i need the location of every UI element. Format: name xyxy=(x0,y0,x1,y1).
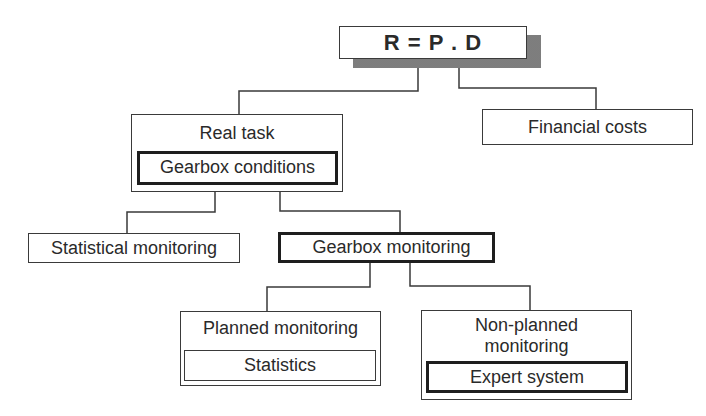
connector-gearbox-to-planned xyxy=(267,263,370,311)
statistics-box: Statistics xyxy=(184,350,376,381)
root-formula-label: R = P . D xyxy=(340,30,526,56)
connector-gearbox-to-non-planned xyxy=(410,263,530,310)
real-task-box: Real task Gearbox conditions xyxy=(131,114,343,192)
statistics-label: Statistics xyxy=(185,355,375,376)
gearbox-monitoring-label: Gearbox monitoring xyxy=(291,237,492,258)
gearbox-conditions-label: Gearbox conditions xyxy=(140,157,335,178)
financial-costs-box: Financial costs xyxy=(482,109,693,145)
non-planned-monitoring-box: Non-planned monitoring Expert system xyxy=(421,310,632,400)
statistical-monitoring-box: Statistical monitoring xyxy=(28,233,240,263)
connector-real-task-to-gearbox-monitoring xyxy=(280,192,400,232)
expert-system-box: Expert system xyxy=(426,361,628,393)
root-formula-box: R = P . D xyxy=(339,26,527,59)
planned-monitoring-box: Planned monitoring Statistics xyxy=(180,311,381,386)
real-task-label: Real task xyxy=(132,123,342,144)
non-planned-label-line1: Non-planned xyxy=(422,315,631,336)
connector-real-task-to-statistical xyxy=(127,192,215,233)
planned-monitoring-label: Planned monitoring xyxy=(181,318,380,339)
non-planned-label-line2: monitoring xyxy=(422,336,631,357)
expert-system-label: Expert system xyxy=(429,367,625,388)
gearbox-conditions-box: Gearbox conditions xyxy=(137,151,338,185)
financial-costs-label: Financial costs xyxy=(483,117,692,138)
gearbox-monitoring-box: Gearbox monitoring xyxy=(278,232,495,263)
statistical-monitoring-label: Statistical monitoring xyxy=(29,238,239,259)
